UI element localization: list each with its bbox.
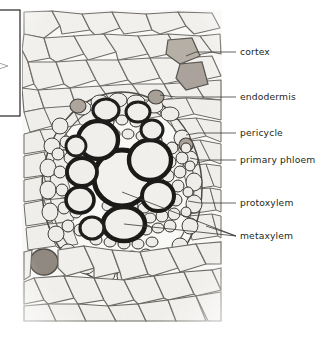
label-cortex: cortex: [240, 46, 270, 57]
photo-vignette: [22, 10, 222, 322]
micrograph-image: [22, 10, 222, 322]
label-pericycle: pericycle: [240, 127, 283, 138]
label-protoxylem: protoxylem: [240, 197, 294, 208]
micrograph-canvas: cortex endodermis pericycle primary phlo…: [0, 0, 332, 350]
label-metaxylem: metaxylem: [240, 230, 293, 241]
figure-root-cross-section: cortex endodermis pericycle primary phlo…: [0, 0, 332, 350]
label-endodermis: endodermis: [240, 91, 296, 102]
label-primary-phloem: primary phloem: [240, 154, 315, 165]
